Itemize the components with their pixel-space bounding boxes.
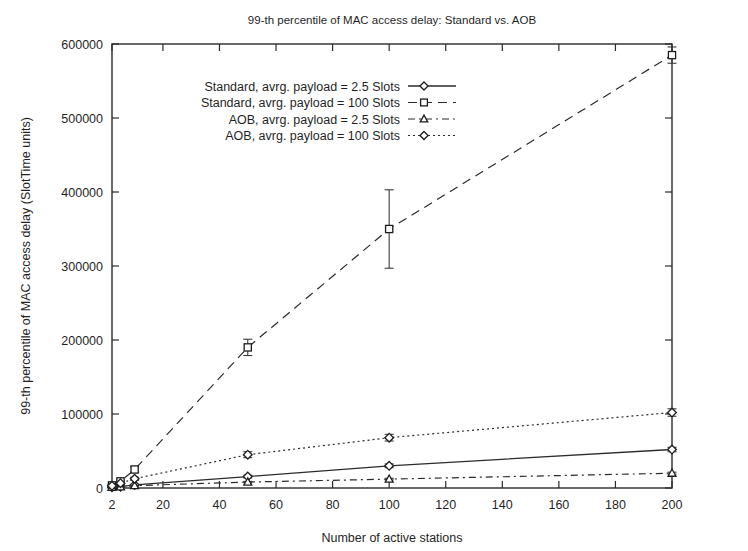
data-point-marker	[131, 466, 138, 473]
x-tick-label: 120	[435, 498, 456, 512]
legend-label: AOB, avrg. payload = 100 Slots	[225, 129, 400, 143]
data-point-marker	[668, 52, 675, 59]
y-axis-label: 99-th percentile of MAC access delay (Sl…	[19, 117, 33, 415]
y-tick-label: 400000	[61, 186, 103, 200]
x-tick-label: 2	[109, 498, 116, 512]
y-tick-label: 100000	[61, 408, 103, 422]
x-tick-label: 40	[213, 498, 227, 512]
legend-label: Standard, avrg. payload = 100 Slots	[201, 96, 400, 110]
x-tick-label: 200	[662, 498, 683, 512]
x-tick-label: 160	[548, 498, 569, 512]
y-tick-label: 600000	[61, 38, 103, 52]
data-point-marker	[386, 225, 393, 232]
x-tick-label: 80	[326, 498, 340, 512]
y-tick-label: 300000	[61, 260, 103, 274]
y-tick-label: 0	[96, 482, 103, 496]
x-axis-label: Number of active stations	[321, 531, 462, 545]
legend-label: AOB, avrg. payload = 2.5 Slots	[229, 113, 400, 127]
legend-label: Standard, avrg. payload = 2.5 Slots	[204, 80, 400, 94]
x-tick-label: 100	[379, 498, 400, 512]
chart-canvas: 99-th percentile of MAC access delay: St…	[0, 0, 748, 551]
data-point-marker	[421, 99, 428, 106]
x-tick-label: 20	[156, 498, 170, 512]
y-tick-label: 200000	[61, 334, 103, 348]
chart-figure: 99-th percentile of MAC access delay: St…	[0, 0, 748, 551]
y-tick-label: 500000	[61, 112, 103, 126]
chart-title: 99-th percentile of MAC access delay: St…	[248, 14, 537, 26]
x-tick-label: 180	[605, 498, 626, 512]
x-tick-label: 60	[269, 498, 283, 512]
x-tick-label: 140	[492, 498, 513, 512]
data-point-marker	[244, 344, 251, 351]
